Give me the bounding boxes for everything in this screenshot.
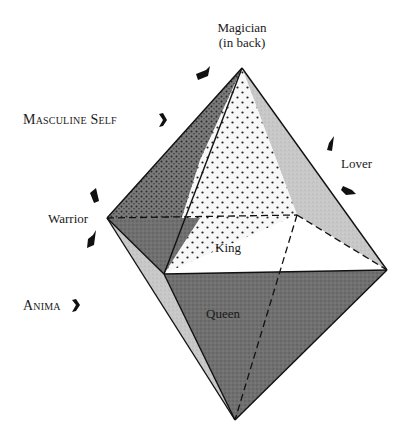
label-magician: Magician (in back) <box>210 20 274 50</box>
arrow-pointer-icon <box>72 299 80 312</box>
arrow-pointer-icon <box>87 230 96 248</box>
label-lover: Lover <box>341 156 372 171</box>
arrow-pointer-icon <box>341 186 356 195</box>
arrow-pointer-icon <box>327 136 334 151</box>
label-anima: Anima <box>23 298 61 313</box>
arrow-pointer-icon <box>196 66 210 80</box>
label-warrior: Warrior <box>48 211 88 226</box>
label-masculine-self: Masculine Self <box>23 112 117 127</box>
label-queen: Queen <box>206 306 240 321</box>
label-king: King <box>215 240 241 255</box>
label-magician-line1: Magician <box>210 20 274 35</box>
label-magician-line2: (in back) <box>210 35 274 50</box>
arrow-pointer-icon <box>90 188 99 203</box>
arrow-pointer-icon <box>159 113 167 127</box>
